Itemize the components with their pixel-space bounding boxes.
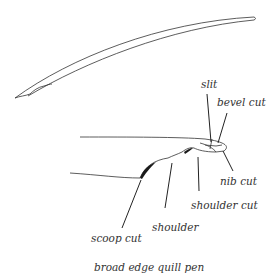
bevel-cut-leader — [218, 113, 227, 143]
label-bevel-cut: bevel cut — [217, 97, 266, 108]
label-nib-cut: nib cut — [220, 176, 257, 187]
shoulder-cut-leader — [198, 157, 199, 191]
label-scoop-cut: scoop cut — [91, 233, 142, 244]
label-slit: slit — [201, 79, 217, 90]
label-shoulder-cut: shoulder cut — [191, 200, 258, 211]
shoulder-cut-fill — [184, 148, 193, 154]
scoop-cut-leader — [122, 180, 141, 228]
slit-leader — [207, 94, 211, 142]
full-quill-outline — [15, 17, 256, 98]
nib-cut-leader — [223, 151, 233, 171]
scoop-cut-fill — [140, 162, 156, 179]
caption: broad edge quill pen — [94, 262, 204, 273]
label-shoulder: shoulder — [152, 222, 199, 233]
nib-detail — [70, 137, 226, 178]
shoulder-leader — [165, 163, 172, 208]
